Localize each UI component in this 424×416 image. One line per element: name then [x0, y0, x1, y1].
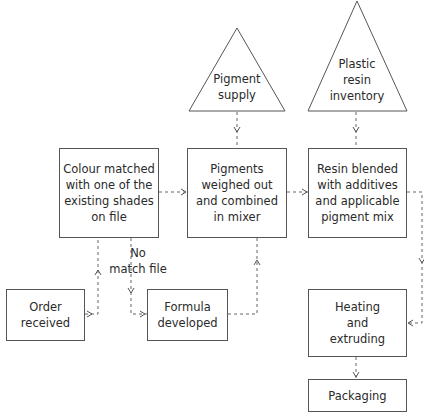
formula-developed-box: Formula developed [147, 289, 228, 341]
pigments-weighed-box: Pigments weighed out and combined in mix… [187, 148, 287, 238]
colour-matched-label: Colour matched with one of the existing … [63, 161, 155, 225]
pigment-supply-node: Pigment supply [200, 68, 274, 106]
order-received-label: Order received [21, 299, 70, 331]
plastic-resin-inventory-node: Plastic resin inventory [318, 54, 396, 106]
arrowhead-icon [302, 189, 307, 195]
arrowhead-icon [419, 258, 424, 263]
packaging-label: Packaging [328, 388, 386, 404]
resin-blended-box: Resin blended with additives and applica… [308, 148, 407, 238]
heating-extruding-box: Heating and extruding [308, 289, 407, 357]
arrowhead-icon [353, 372, 359, 377]
edge-formula-to-pigments [228, 238, 257, 314]
arrowhead-icon [353, 127, 359, 132]
arrowhead-icon [234, 127, 240, 132]
pigment-supply-label: Pigment supply [213, 71, 260, 103]
resin-blended-label: Resin blended with additives and applica… [315, 161, 399, 225]
pigments-weighed-label: Pigments weighed out and combined in mix… [196, 161, 278, 225]
order-received-box: Order received [6, 289, 85, 341]
heating-extruding-label: Heating and extruding [330, 299, 385, 347]
edge-order-to-colour [85, 238, 98, 314]
colour-matched-box: Colour matched with one of the existing … [59, 148, 159, 238]
packaging-box: Packaging [308, 379, 407, 412]
plastic-resin-inventory-label: Plastic resin inventory [330, 56, 385, 104]
edge-resin-to-heating [407, 192, 422, 323]
no-match-file-label: No match file [104, 245, 172, 277]
formula-developed-label: Formula developed [157, 299, 217, 331]
